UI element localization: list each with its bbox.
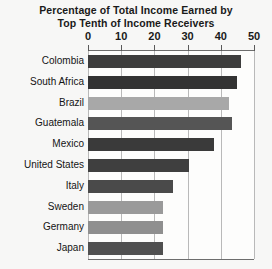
bar-row — [88, 97, 254, 110]
x-tick-label-40: 40 — [215, 30, 227, 42]
bar-row — [88, 201, 254, 214]
bar-italy — [88, 180, 173, 193]
bar-colombia — [88, 55, 241, 68]
category-label-brazil: Brazil — [59, 97, 84, 108]
category-label-japan: Japan — [57, 242, 84, 253]
chart-title-line-2: Top Tenth of Income Receivers — [0, 17, 272, 30]
bar-guatemala — [88, 117, 232, 130]
x-tick-label-20: 20 — [148, 30, 160, 42]
x-tick-label-50: 50 — [248, 30, 260, 42]
tick-mark-50 — [254, 45, 255, 51]
bar-sweden — [88, 201, 163, 214]
y-axis-category-labels: ColombiaSouth AfricaBrazilGuatemalaMexic… — [0, 50, 88, 258]
tick-mark-40 — [221, 45, 222, 51]
category-label-mexico: Mexico — [52, 138, 84, 149]
x-tick-label-0: 0 — [85, 30, 91, 42]
category-label-colombia: Colombia — [42, 55, 84, 66]
bar-germany — [88, 221, 163, 234]
bar-mexico — [88, 138, 214, 151]
tick-mark-10 — [121, 45, 122, 51]
x-axis-tick-labels: 01020304050 — [0, 30, 272, 46]
category-label-guatemala: Guatemala — [35, 117, 84, 128]
bar-row — [88, 221, 254, 234]
category-label-italy: Italy — [66, 180, 84, 191]
bar-row — [88, 159, 254, 172]
gridline-50 — [254, 51, 255, 259]
bar-south-africa — [88, 76, 237, 89]
tick-mark-0 — [88, 45, 89, 51]
category-label-germany: Germany — [43, 221, 84, 232]
bar-row — [88, 117, 254, 130]
bar-united-states — [88, 159, 189, 172]
tick-mark-20 — [154, 45, 155, 51]
category-label-united-states: United States — [24, 159, 84, 170]
bar-brazil — [88, 97, 229, 110]
bar-japan — [88, 242, 163, 255]
bar-row — [88, 76, 254, 89]
tick-mark-30 — [188, 45, 189, 51]
category-label-sweden: Sweden — [48, 201, 84, 212]
bar-row — [88, 138, 254, 151]
bar-row — [88, 242, 254, 255]
chart-title: Percentage of Total Income Earned by Top… — [0, 4, 272, 30]
x-tick-label-10: 10 — [115, 30, 127, 42]
bar-chart: Percentage of Total Income Earned by Top… — [0, 0, 272, 269]
chart-title-line-1: Percentage of Total Income Earned by — [0, 4, 272, 17]
bar-row — [88, 180, 254, 193]
bar-row — [88, 55, 254, 68]
plot-area — [88, 50, 254, 260]
category-label-south-africa: South Africa — [30, 76, 84, 87]
x-tick-label-30: 30 — [181, 30, 193, 42]
